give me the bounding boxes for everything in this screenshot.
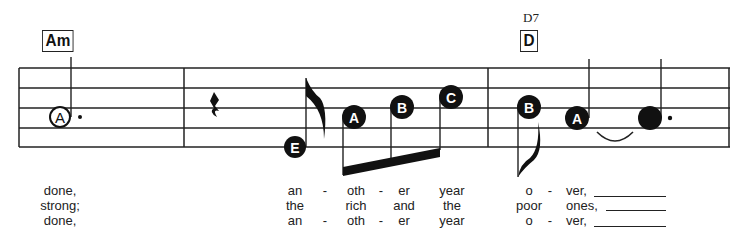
note-e-eighth: E <box>284 78 325 158</box>
lyric-syllable: er <box>398 214 410 228</box>
lyric-extender-line <box>606 210 666 211</box>
note-dotted-quarter <box>638 59 672 130</box>
note-letter: B <box>524 100 534 116</box>
lyric-syllable: done, <box>44 184 77 198</box>
lyric-syllable: the <box>443 199 461 213</box>
lyric-syllable: poor <box>516 199 542 213</box>
lyric-syllable: an <box>288 184 302 198</box>
lyric-hyphen: - <box>323 214 327 228</box>
note-b-eighth: B <box>517 95 541 177</box>
lyric-syllable: an <box>288 214 302 228</box>
lyric-syllable: strong; <box>40 199 80 213</box>
staff-lines <box>19 68 730 147</box>
lyric-syllable: o <box>525 214 532 228</box>
note-letter: E <box>290 140 299 156</box>
music-staff: A E A B C B A <box>0 0 747 241</box>
tie-icon <box>597 132 633 141</box>
lyric-hyphen: - <box>379 214 383 228</box>
lyric-hyphen: - <box>548 214 552 228</box>
lyric-extender-line <box>594 226 666 227</box>
lyric-syllable: rich <box>346 199 367 213</box>
note-flag <box>518 122 540 177</box>
dot-icon <box>668 116 672 120</box>
lyric-syllable: year <box>439 184 464 198</box>
lyric-syllable: er <box>398 184 410 198</box>
lyric-syllable: ver, <box>566 214 587 228</box>
note-letter: B <box>397 100 407 116</box>
lyric-syllable: o <box>525 184 532 198</box>
note-letter: A <box>55 109 65 126</box>
dot-icon <box>78 115 82 119</box>
lyric-syllable: and <box>393 199 415 213</box>
lyric-syllable: oth <box>347 214 365 228</box>
quarter-rest-icon <box>210 92 219 117</box>
lyric-hyphen: - <box>323 184 327 198</box>
note-letter: A <box>572 111 582 127</box>
lyric-syllable: the <box>286 199 304 213</box>
note-letter: A <box>349 110 359 126</box>
lyric-extender-line <box>594 196 666 197</box>
note-letter: C <box>446 90 456 106</box>
lyric-syllable: oth <box>347 184 365 198</box>
lyric-hyphen: - <box>379 184 383 198</box>
lyric-syllable: ver, <box>566 184 587 198</box>
note-head <box>638 106 662 130</box>
lyric-hyphen: - <box>548 184 552 198</box>
note-a-quarter: A <box>565 59 589 130</box>
lyric-syllable: done, <box>44 214 77 228</box>
lyric-syllable: year <box>439 214 464 228</box>
lyric-syllable: ones, <box>566 199 598 213</box>
beamed-note-group: A B C <box>342 85 463 176</box>
